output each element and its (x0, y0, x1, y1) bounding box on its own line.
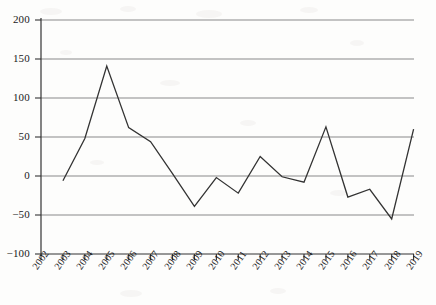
y-tick-label-neg100: −100 (0, 247, 30, 259)
data-series-line (63, 66, 414, 219)
y-tick-label-150: 150 (2, 52, 30, 64)
y-tick-label-50: 50 (2, 130, 30, 142)
y-axis-ticks (35, 20, 41, 254)
y-tick-label-100: 100 (2, 91, 30, 103)
y-tick-label-200: 200 (2, 13, 30, 25)
y-tick-label-0: 0 (2, 169, 30, 181)
line-chart: 200 150 100 50 0 −50 −100 2002 2003 2004… (0, 0, 436, 305)
y-tick-label-neg50: −50 (2, 208, 30, 220)
